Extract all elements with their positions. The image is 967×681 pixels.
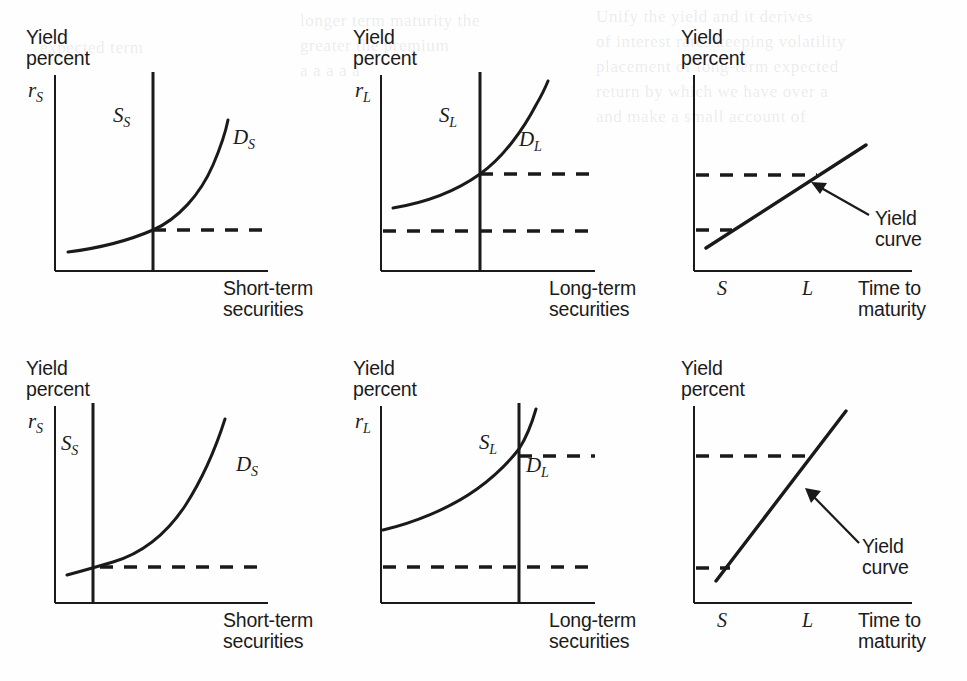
yield-curve-line	[706, 145, 866, 248]
x-tick-label-L: L	[802, 609, 813, 631]
y-axis-label-line2: percent	[26, 378, 90, 400]
y-axis-symbol: rS	[28, 79, 43, 109]
panel-bottom-right: Yield percent Yield curve S L Time to ma…	[654, 331, 967, 661]
supply-curve-label: SS	[61, 432, 78, 462]
yield-curve-line	[716, 411, 846, 581]
x-tick-label-S: S	[717, 609, 727, 631]
demand-curve-label: DL	[519, 128, 542, 158]
x-axis-label-line1: Time to	[858, 277, 921, 299]
yield-curve-annotation-line2: curve	[862, 556, 909, 578]
x-axis-label-line2: securities	[223, 630, 303, 652]
y-axis-label-line2: percent	[26, 47, 90, 69]
demand-curve-line	[383, 409, 536, 530]
panel-top-right: Yield percent Yield curve S L Time to ma…	[654, 0, 967, 330]
annotation-arrow-line	[816, 185, 869, 215]
demand-curve-label: DL	[526, 454, 549, 484]
x-axis-label-line2: maturity	[858, 630, 926, 652]
annotation-arrow-line	[811, 494, 859, 543]
x-axis-label-line1: Short-term	[223, 609, 313, 631]
x-tick-label-S: S	[717, 277, 727, 299]
x-axis-label-line2: securities	[549, 298, 629, 320]
y-axis-symbol: rL	[355, 79, 371, 109]
figure-root: Unify the yield and it derives of intere…	[0, 0, 967, 681]
x-axis-label-line2: securities	[549, 630, 629, 652]
demand-curve-line	[67, 419, 225, 575]
y-axis-label-line2: percent	[353, 47, 417, 69]
supply-curve-label: SL	[479, 431, 497, 461]
demand-curve-line	[68, 120, 228, 252]
demand-curve-label: DS	[233, 126, 255, 156]
x-axis-label-line2: maturity	[858, 298, 926, 320]
y-axis-label-line1: Yield	[26, 357, 68, 379]
panel-bottom-middle: Yield percent rL SL DL Long-term securit…	[327, 331, 654, 661]
supply-curve-label: SS	[113, 104, 130, 134]
y-axis-label-line1: Yield	[681, 26, 723, 48]
demand-curve-label: DS	[236, 453, 258, 483]
y-axis-label-line1: Yield	[353, 26, 395, 48]
panel-bottom-left: Yield percent rS SS DS Short-term securi…	[0, 331, 327, 661]
y-axis-symbol: rL	[355, 410, 371, 440]
y-axis-symbol: rS	[28, 410, 43, 440]
x-tick-label-L: L	[802, 277, 813, 299]
panel-top-left: Yield percent rS SS DS Short-term securi…	[0, 0, 327, 330]
y-axis-label-line2: percent	[681, 47, 745, 69]
x-axis-label-line1: Short-term	[223, 277, 313, 299]
y-axis-label-line1: Yield	[26, 26, 68, 48]
supply-curve-label: SL	[439, 104, 457, 134]
x-axis-label-line1: Long-term	[549, 609, 636, 631]
y-axis-label-line2: percent	[353, 378, 417, 400]
yield-curve-annotation-line2: curve	[875, 228, 922, 250]
panel-top-middle: Yield percent rL SL DL Long-term securit…	[327, 0, 654, 330]
x-axis-label-line2: securities	[223, 298, 303, 320]
y-axis-label-line1: Yield	[681, 357, 723, 379]
y-axis-label-line1: Yield	[353, 357, 395, 379]
y-axis-label-line2: percent	[681, 378, 745, 400]
yield-curve-annotation-line1: Yield	[875, 207, 917, 229]
annotation-arrow-head	[811, 182, 827, 194]
yield-curve-annotation-line1: Yield	[862, 535, 904, 557]
x-axis-label-line1: Long-term	[549, 277, 636, 299]
x-axis-label-line1: Time to	[858, 609, 921, 631]
